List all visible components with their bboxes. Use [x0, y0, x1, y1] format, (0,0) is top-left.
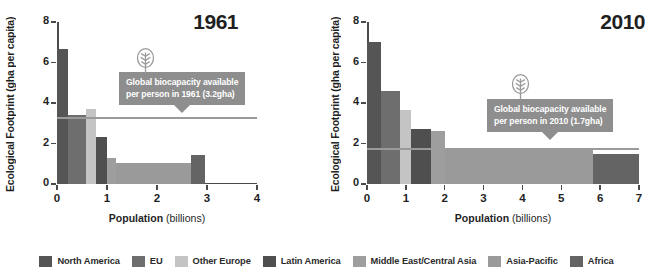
x-axis-label-main: Population — [109, 212, 166, 224]
y-tick-mark — [51, 143, 56, 145]
bar-other-europe — [86, 109, 96, 184]
y-tick-label: 2 — [33, 136, 49, 148]
legend-swatch — [263, 256, 276, 267]
bar-asia-pacific — [116, 163, 191, 184]
x-tick-label: 2 — [148, 192, 166, 204]
y-tick-mark — [51, 21, 56, 23]
x-tick-mark — [366, 185, 368, 190]
x-tick-label: 3 — [198, 192, 216, 204]
x-tick-mark — [522, 185, 524, 190]
y-axis-label-main: Ecological Footprint — [4, 91, 16, 191]
bar-north-america — [367, 42, 381, 184]
legend-label: Other Europe — [193, 256, 251, 266]
x-tick-mark — [256, 185, 258, 190]
y-tick-mark — [51, 102, 56, 104]
x-tick-mark — [561, 185, 563, 190]
callout-tail — [174, 105, 190, 113]
x-tick-label: 4 — [513, 192, 531, 204]
x-tick-label: 4 — [248, 192, 266, 204]
bar-africa — [593, 154, 639, 184]
x-axis-label-unit: (billions) — [166, 212, 205, 224]
leaf-icon — [511, 74, 530, 104]
legend-label: Middle East/Central Asia — [371, 256, 477, 266]
bar-eu — [68, 115, 86, 184]
x-tick-label: 3 — [475, 192, 493, 204]
x-tick-mark — [156, 185, 158, 190]
y-axis-label-unit: (gha per capita) — [4, 16, 16, 91]
x-tick-label: 0 — [358, 192, 376, 204]
bar-asia-pacific — [445, 148, 593, 184]
x-tick-label: 0 — [48, 192, 66, 204]
callout-line-1: Global biocapacity available — [126, 77, 238, 89]
legend-item-africa[interactable]: Africa — [570, 256, 614, 267]
biocapacity-reference-line — [57, 117, 257, 119]
y-axis-label-unit: (gha per capita) — [329, 16, 341, 91]
x-tick-mark — [638, 185, 640, 190]
y-axis-label-1961: Ecological Footprint (gha per capita) — [2, 14, 18, 194]
legend-item-eu[interactable]: EU — [132, 256, 163, 267]
bar-middle-east-central-asia — [431, 131, 445, 184]
y-tick-mark — [51, 62, 56, 64]
x-tick-mark — [106, 185, 108, 190]
legend-item-other-europe[interactable]: Other Europe — [175, 256, 251, 267]
legend-label: Africa — [588, 256, 614, 266]
chart-panel-2010: 2010 Ecological Footprint (gha per capit… — [325, 0, 653, 250]
legend-label: EU — [150, 256, 163, 266]
x-tick-label: 1 — [397, 192, 415, 204]
x-tick-mark — [599, 185, 601, 190]
y-tick-label: 6 — [343, 55, 359, 67]
legend-swatch — [132, 256, 145, 267]
chart-figure: 1961 Ecological Footprint (gha per capit… — [0, 0, 653, 280]
legend-item-asia-pacific[interactable]: Asia-Pacific — [488, 256, 558, 267]
y-tick-label: 8 — [33, 14, 49, 26]
bar-middle-east-central-asia — [107, 158, 116, 184]
x-tick-mark — [405, 185, 407, 190]
y-axis-label-main: Ecological Footprint — [329, 91, 341, 191]
x-axis-label-unit: (billions) — [512, 212, 551, 224]
y-tick-mark — [361, 62, 366, 64]
legend-item-north-america[interactable]: North America — [39, 256, 119, 267]
leaf-icon — [136, 48, 155, 78]
legend-item-latin-america[interactable]: Latin America — [263, 256, 341, 267]
callout-line-2: per person in 1961 (3.2gha) — [126, 89, 238, 101]
y-tick-label: 0 — [33, 176, 49, 188]
y-tick-label: 0 — [343, 176, 359, 188]
x-tick-mark — [56, 185, 58, 190]
y-axis-label-2010: Ecological Footprint (gha per capita) — [327, 14, 343, 194]
y-tick-mark — [361, 21, 366, 23]
y-tick-label: 4 — [343, 95, 359, 107]
chart-panel-1961: 1961 Ecological Footprint (gha per capit… — [0, 0, 330, 250]
callout-line-2: per person in 2010 (1.7gha) — [494, 116, 606, 128]
x-tick-label: 7 — [630, 192, 648, 204]
x-tick-label: 1 — [98, 192, 116, 204]
legend-swatch — [488, 256, 501, 267]
biocapacity-callout: Global biocapacity availableper person i… — [487, 99, 613, 132]
legend-swatch — [570, 256, 583, 267]
legend-label: North America — [57, 256, 119, 266]
x-tick-mark — [206, 185, 208, 190]
y-tick-mark — [51, 183, 56, 185]
legend-label: Asia-Pacific — [506, 256, 558, 266]
legend-swatch — [175, 256, 188, 267]
callout-line-1: Global biocapacity available — [494, 104, 606, 116]
y-tick-label: 2 — [343, 136, 359, 148]
bar-africa — [191, 155, 205, 184]
bar-latin-america — [411, 129, 431, 184]
bar-latin-america — [96, 137, 107, 184]
x-tick-mark — [444, 185, 446, 190]
callout-tail — [542, 132, 558, 140]
legend-item-middle-east-central-asia[interactable]: Middle East/Central Asia — [353, 256, 477, 267]
x-axis-label-2010: Population (billions) — [367, 212, 639, 224]
x-tick-label: 6 — [591, 192, 609, 204]
x-axis-label-main: Population — [455, 212, 512, 224]
x-axis-label-1961: Population (billions) — [57, 212, 257, 224]
x-tick-label: 2 — [436, 192, 454, 204]
y-tick-label: 6 — [33, 55, 49, 67]
x-tick-mark — [483, 185, 485, 190]
y-tick-mark — [361, 102, 366, 104]
legend-swatch — [353, 256, 366, 267]
x-tick-label: 5 — [552, 192, 570, 204]
chart-legend: North AmericaEUOther EuropeLatin America… — [0, 252, 653, 270]
legend-swatch — [39, 256, 52, 267]
y-tick-label: 4 — [33, 95, 49, 107]
